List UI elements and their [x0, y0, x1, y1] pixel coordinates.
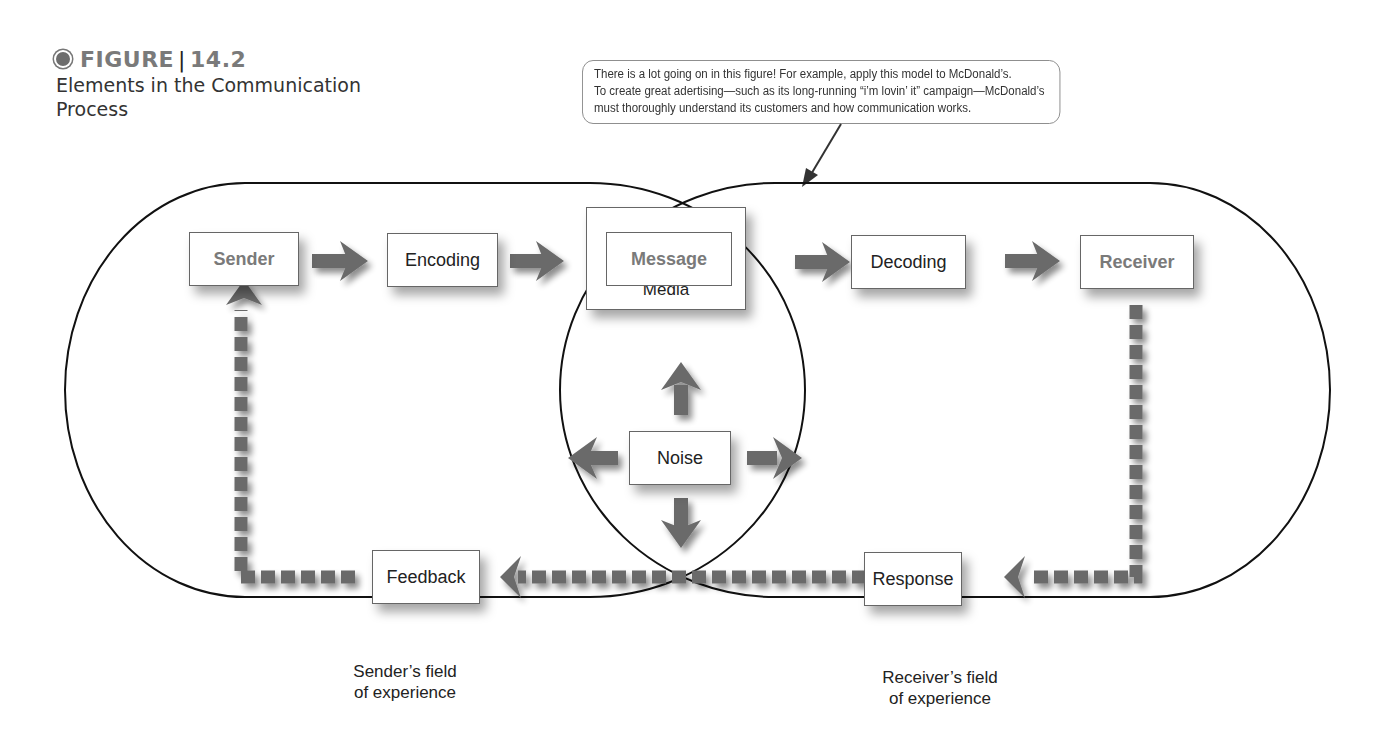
arrow-down-icon [661, 498, 701, 548]
node-message: Message [606, 232, 732, 286]
node-response: Response [864, 552, 962, 606]
arrow-left-icon [568, 437, 618, 479]
node-decoding: Decoding [851, 235, 966, 289]
node-encoding: Encoding [387, 233, 498, 287]
receiver-field-label: Receiver’s field of experience [840, 667, 1040, 709]
receiver-field-line: Receiver’s field [840, 667, 1040, 688]
arrow-left-icon [1004, 556, 1025, 598]
arrow-right-icon [312, 241, 368, 281]
node-receiver: Receiver [1080, 235, 1194, 289]
sender-field-label: Sender’s field of experience [310, 661, 500, 703]
diagram-canvas [0, 0, 1390, 733]
callout-pointer-arrow [802, 124, 841, 187]
node-sender: Sender [189, 232, 299, 286]
arrow-right-icon [510, 241, 564, 281]
arrow-left-icon [500, 556, 521, 598]
sender-field-line: of experience [310, 682, 500, 703]
arrow-right-icon [795, 242, 850, 282]
receiver-field-line: of experience [840, 688, 1040, 709]
sender-field-line: Sender’s field [310, 661, 500, 682]
node-noise: Noise [629, 431, 731, 485]
node-feedback: Feedback [372, 550, 480, 604]
arrow-right-icon [1005, 241, 1060, 281]
arrow-up-icon [661, 362, 701, 415]
arrow-right-icon [747, 437, 802, 479]
